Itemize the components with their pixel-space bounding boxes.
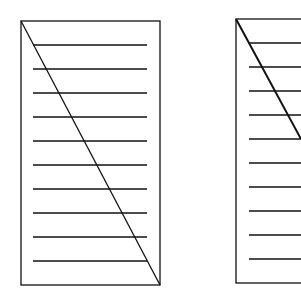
right-panel (236, 19, 301, 283)
left-panel (21, 21, 160, 285)
diagonal-line (236, 19, 301, 139)
frame-rectangle (236, 19, 301, 283)
diagram-canvas (0, 0, 301, 308)
diagonal-line (21, 21, 160, 285)
